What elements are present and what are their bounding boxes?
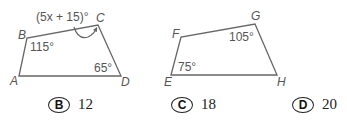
angle-d-label: 65°: [94, 61, 112, 75]
vertex-label-e: E: [164, 75, 173, 89]
option-value: 20: [322, 96, 337, 113]
option-value: 18: [201, 96, 216, 113]
vertex-label-h: H: [277, 75, 286, 89]
angle-b-label: 115°: [30, 40, 54, 54]
option-letter-badge: C: [171, 97, 193, 113]
option-letter-badge: B: [48, 97, 70, 113]
option-value: 12: [78, 96, 93, 113]
vertex-label-b: B: [18, 28, 26, 42]
option-b[interactable]: B 12: [48, 96, 93, 113]
angle-e-label: 75°: [178, 60, 196, 74]
vertex-label-c: C: [96, 11, 105, 25]
option-c[interactable]: C 18: [171, 96, 216, 113]
angle-g-label: 105°: [229, 30, 254, 44]
angle-c-expression: (5x + 15)°: [36, 10, 89, 24]
option-d[interactable]: D 20: [292, 96, 337, 113]
vertex-label-d: D: [121, 75, 130, 89]
vertex-label-g: G: [251, 9, 260, 23]
vertex-label-a: A: [9, 74, 18, 88]
vertex-label-f: F: [172, 27, 180, 41]
option-letter-badge: D: [292, 97, 314, 113]
